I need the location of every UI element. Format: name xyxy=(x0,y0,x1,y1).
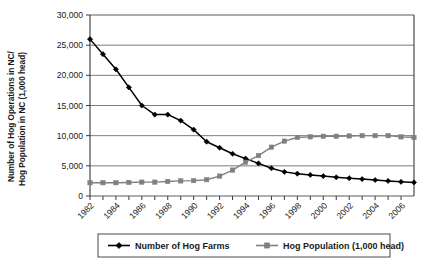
data-point-square xyxy=(321,134,325,138)
y-tick-label: 25,000 xyxy=(57,40,84,50)
data-point-square xyxy=(153,180,157,184)
chart-figure: Number of Hog Operations in NC/ Hog Popu… xyxy=(0,0,426,262)
hog-farms-population-line-chart: Number of Hog Operations in NC/ Hog Popu… xyxy=(0,0,426,262)
y-tick-label: 15,000 xyxy=(57,101,84,111)
data-point-square xyxy=(399,135,403,139)
y-axis-title-line1: Number of Hog Operations in NC/ xyxy=(6,51,16,182)
data-point-square xyxy=(412,135,416,139)
data-point-square xyxy=(334,134,338,138)
data-point-square xyxy=(191,178,195,182)
y-tick-label: 10,000 xyxy=(57,131,84,141)
y-tick-label: 20,000 xyxy=(57,70,84,80)
data-point-square xyxy=(88,181,92,185)
y-axis-title-line2: Hog Population in NC (1,000 head) xyxy=(17,52,27,186)
data-point-square xyxy=(243,160,247,164)
data-point-square xyxy=(308,135,312,139)
data-point-square xyxy=(256,153,260,157)
data-point-square xyxy=(230,168,234,172)
data-point-square xyxy=(166,179,170,183)
data-point-square xyxy=(179,179,183,183)
legend-label: Number of Hog Farms xyxy=(135,241,230,251)
data-point-square xyxy=(386,133,390,137)
data-point-square xyxy=(204,178,208,182)
data-point-square xyxy=(127,180,131,184)
data-point-square xyxy=(269,145,273,149)
data-point-square xyxy=(347,134,351,138)
y-tick-label: 5,000 xyxy=(61,161,83,171)
data-point-square xyxy=(373,133,377,137)
data-point-square xyxy=(360,133,364,137)
y-tick-label: 0 xyxy=(78,191,83,201)
y-axis-title: Number of Hog Operations in NC/ Hog Popu… xyxy=(6,51,27,186)
data-point-square xyxy=(295,135,299,139)
legend-marker-square xyxy=(264,243,269,248)
data-point-square xyxy=(140,180,144,184)
y-tick-label: 30,000 xyxy=(57,10,84,20)
data-point-square xyxy=(217,174,221,178)
data-point-square xyxy=(101,181,105,185)
legend-label: Hog Population (1,000 head) xyxy=(283,241,404,251)
data-point-square xyxy=(114,181,118,185)
chart-legend: Number of Hog FarmsHog Population (1,000… xyxy=(98,234,404,257)
data-point-square xyxy=(282,139,286,143)
